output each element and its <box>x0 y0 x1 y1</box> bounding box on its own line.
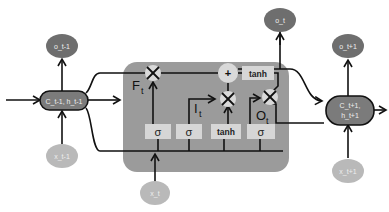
output-multiply-op <box>262 89 278 105</box>
cell-tanh-box: tanh <box>242 66 274 80</box>
add-op: + <box>218 63 238 83</box>
forget-gate-box: σ <box>145 124 171 139</box>
current-output-node: o_t <box>264 8 296 32</box>
prev-state-node: C_t-1, h_t-1 <box>40 91 88 110</box>
svg-text:C_t-1, h_t-1: C_t-1, h_t-1 <box>46 98 83 106</box>
svg-text:F: F <box>132 78 140 93</box>
svg-text:x_t: x_t <box>150 190 159 198</box>
next-input-node: x_t+1 <box>332 159 364 183</box>
svg-text:x_t+1: x_t+1 <box>339 168 356 176</box>
prev-input-node: x_t-1 <box>46 144 78 168</box>
svg-text:o_t-1: o_t-1 <box>54 43 70 51</box>
candidate-gate-box: tanh <box>211 124 241 139</box>
svg-text:C_t+1,: C_t+1, <box>340 102 361 110</box>
svg-text:+: + <box>225 67 231 79</box>
svg-text:tanh: tanh <box>249 69 267 79</box>
next-state-node: C_t+1, h_t+1 <box>326 96 374 125</box>
lstm-diagram: + tanh σ σ tanh σ F t I t O t C_t-1, h_t… <box>0 0 389 212</box>
svg-text:σ: σ <box>155 126 162 138</box>
next-output-node: o_t+1 <box>332 34 364 58</box>
svg-text:x_t-1: x_t-1 <box>54 153 70 161</box>
svg-text:o_t+1: o_t+1 <box>339 43 357 51</box>
svg-text:I: I <box>194 101 198 116</box>
svg-text:σ: σ <box>186 126 193 138</box>
svg-text:σ: σ <box>258 126 265 138</box>
input-multiply-op <box>220 91 236 107</box>
svg-text:tanh: tanh <box>217 127 235 137</box>
svg-text:O: O <box>256 108 266 123</box>
current-input-node: x_t <box>140 181 170 205</box>
input-gate-box: σ <box>176 124 202 139</box>
output-gate-box: σ <box>247 124 275 139</box>
prev-output-node: o_t-1 <box>46 34 78 58</box>
svg-text:h_t+1: h_t+1 <box>341 112 359 120</box>
forget-multiply-op <box>145 65 161 81</box>
svg-text:o_t: o_t <box>275 17 285 25</box>
